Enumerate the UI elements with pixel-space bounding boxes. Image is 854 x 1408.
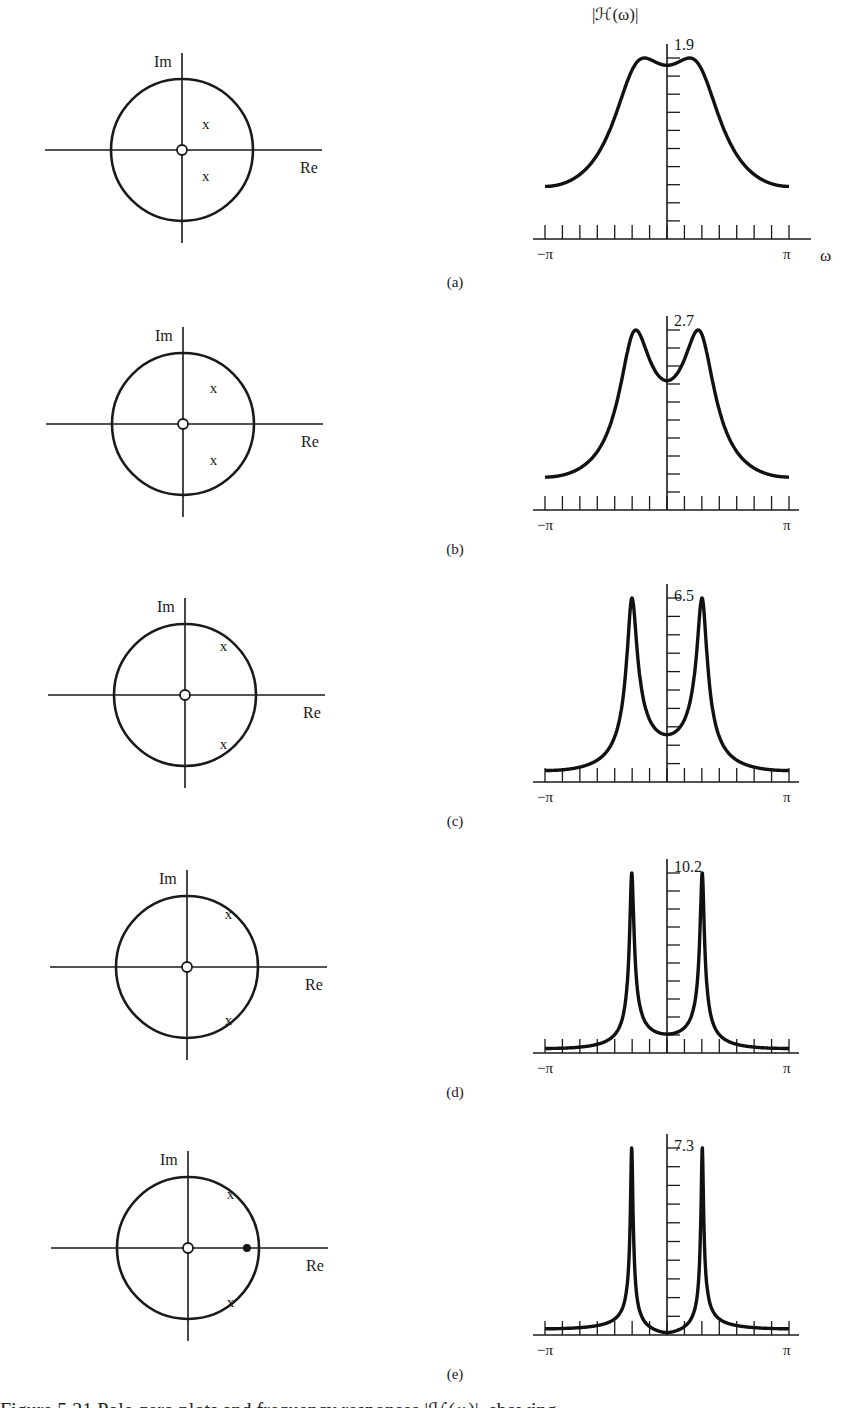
peak-value-label: 1.9 <box>674 36 694 53</box>
peak-value-label: 2.7 <box>674 312 694 329</box>
im-axis-label: Im <box>155 327 173 344</box>
freq-response-chart-b: 2.7−ππ <box>533 312 799 533</box>
x-axis-title: ω <box>820 246 831 265</box>
filled-zero-marker <box>243 1244 251 1252</box>
peak-value-label: 10.2 <box>674 858 702 875</box>
pole-marker: x <box>225 1012 233 1028</box>
im-axis-label: Im <box>157 598 175 615</box>
re-axis-label: Re <box>300 159 318 176</box>
pole-marker: x <box>210 380 218 396</box>
freq-response-chart-c: 6.5−ππ <box>533 584 799 805</box>
pole-marker: x <box>202 116 210 132</box>
x-max-label: π <box>783 1060 791 1076</box>
peak-value-label: 7.3 <box>674 1137 694 1154</box>
pole-zero-plot-a: ImRexx <box>45 53 322 243</box>
pole-marker: x <box>210 452 218 468</box>
re-axis-label: Re <box>305 976 323 993</box>
x-max-label: π <box>783 246 791 262</box>
re-axis-label: Re <box>306 1257 324 1274</box>
pole-zero-plot-c: ImRexx <box>48 598 325 788</box>
pole-marker: x <box>220 638 228 654</box>
caption-e: (e) <box>447 1366 464 1383</box>
y-axis-title: |ℋ(ω)| <box>592 5 638 24</box>
caption-d: (d) <box>446 1084 464 1101</box>
x-min-label: −π <box>537 1060 553 1076</box>
im-axis-label: Im <box>154 53 172 70</box>
freq-response-chart-a: 1.9−ππ|ℋ(ω)|ω <box>533 5 831 265</box>
x-max-label: π <box>783 517 791 533</box>
x-min-label: −π <box>537 517 553 533</box>
im-axis-label: Im <box>159 870 177 887</box>
freq-response-chart-d: 10.2−ππ <box>533 858 799 1076</box>
pole-zero-plot-d: ImRexx <box>50 870 327 1060</box>
zero-marker <box>183 1243 193 1253</box>
pole-marker: x <box>227 1294 235 1310</box>
caption-a: (a) <box>447 274 464 291</box>
x-min-label: −π <box>537 1342 553 1358</box>
re-axis-label: Re <box>301 433 319 450</box>
x-max-label: π <box>783 789 791 805</box>
zero-marker <box>182 962 192 972</box>
im-axis-label: Im <box>160 1151 178 1168</box>
zero-marker <box>177 145 187 155</box>
freq-response-chart-e: 7.3−ππ <box>533 1134 799 1358</box>
zero-marker <box>180 690 190 700</box>
x-min-label: −π <box>537 789 553 805</box>
pole-zero-plot-e: ImRexx <box>51 1151 328 1341</box>
pole-marker: x <box>227 1186 235 1202</box>
pole-marker: x <box>220 736 228 752</box>
truncated-caption: Figure 5.21 Pole-zero plots and frequenc… <box>0 1396 854 1408</box>
x-max-label: π <box>783 1342 791 1358</box>
x-min-label: −π <box>537 246 553 262</box>
caption-c: (c) <box>447 813 464 830</box>
zero-marker <box>178 419 188 429</box>
peak-value-label: 6.5 <box>674 587 694 604</box>
re-axis-label: Re <box>303 704 321 721</box>
pole-marker: x <box>202 168 210 184</box>
pole-marker: x <box>225 906 233 922</box>
pole-zero-plot-b: ImRexx <box>46 327 323 517</box>
caption-b: (b) <box>446 541 464 558</box>
